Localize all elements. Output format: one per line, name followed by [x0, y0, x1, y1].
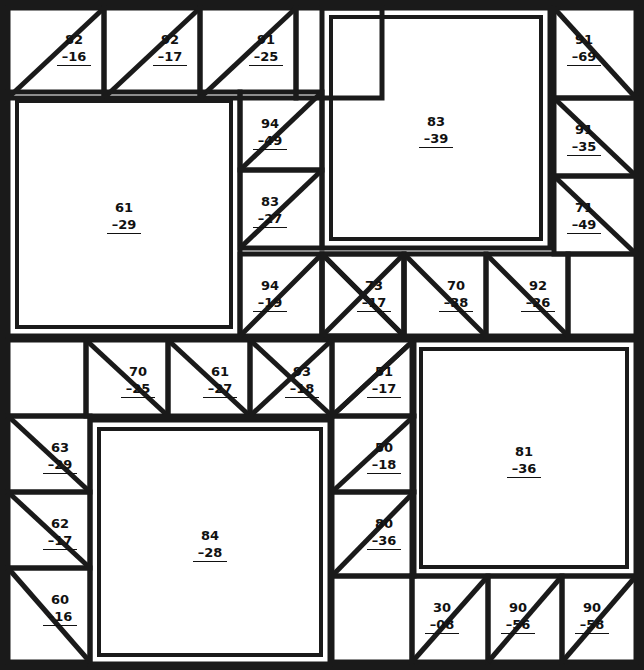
- piece-subcode-p26: –28: [198, 545, 223, 560]
- piece-code-p11: 71: [575, 200, 593, 215]
- piece-subcode-p21: –18: [290, 381, 315, 396]
- piece-subcode-p05: –69: [572, 49, 597, 64]
- piece-code-p32: 90: [509, 600, 527, 615]
- piece-code-p03: 91: [257, 32, 275, 47]
- piece-code-p21: 93: [293, 364, 311, 379]
- piece-code-p16: 92: [529, 278, 547, 293]
- piece-code-p26: 84: [201, 528, 219, 543]
- piece-subcode-p28: –36: [372, 533, 397, 548]
- quilt-diagram-canvas: 82–1692–1791–2591–6983–3994–4991–3561–29…: [0, 0, 644, 670]
- piece-subcode-p20: –27: [208, 381, 233, 396]
- piece-code-p28: 80: [375, 516, 393, 531]
- piece-code-p29: 60: [51, 592, 69, 607]
- piece-subcode-p10: –27: [258, 211, 283, 226]
- piece-subcode-p25: –18: [372, 457, 397, 472]
- piece-code-p19: 70: [129, 364, 147, 379]
- piece-code-p27: 62: [51, 516, 69, 531]
- piece-subcode-p32: –56: [506, 617, 531, 632]
- piece-subcode-p31: –08: [430, 617, 455, 632]
- piece-code-p02: 92: [161, 32, 179, 47]
- piece-code-p01: 82: [65, 32, 83, 47]
- piece-code-p08: 91: [575, 122, 593, 137]
- piece-fill-p18: [8, 340, 86, 416]
- piece-subcode-p14: –17: [362, 295, 387, 310]
- piece-code-p22: 51: [375, 364, 393, 379]
- piece-code-p25: 50: [375, 440, 393, 455]
- piece-code-p06: 83: [427, 114, 445, 129]
- piece-subcode-p07: –49: [258, 133, 283, 148]
- piece-subcode-p16: –26: [526, 295, 551, 310]
- piece-subcode-p12: –19: [258, 295, 283, 310]
- piece-code-p20: 61: [211, 364, 229, 379]
- piece-subcode-p11: –49: [572, 217, 597, 232]
- piece-subcode-p19: –25: [126, 381, 151, 396]
- piece-code-p31: 30: [433, 600, 451, 615]
- piece-subcode-p33: –58: [580, 617, 605, 632]
- piece-subcode-p15: –38: [444, 295, 469, 310]
- piece-subcode-p09: –29: [112, 217, 137, 232]
- piece-code-p09: 61: [115, 200, 133, 215]
- piece-fill-p17: [568, 254, 636, 336]
- piece-subcode-p06: –39: [424, 131, 449, 146]
- piece-code-p33: 90: [583, 600, 601, 615]
- piece-code-p05: 91: [575, 32, 593, 47]
- piece-subcode-p08: –35: [572, 139, 597, 154]
- piece-subcode-p22: –17: [372, 381, 397, 396]
- piece-code-p15: 70: [447, 278, 465, 293]
- piece-subcode-p23: –36: [512, 461, 537, 476]
- piece-subcode-p27: –17: [48, 533, 73, 548]
- piece-subcode-p29: –16: [48, 609, 73, 624]
- piece-subcode-p03: –25: [254, 49, 279, 64]
- piece-subcode-p24: –29: [48, 457, 73, 472]
- piece-fill-p30: [332, 576, 412, 662]
- piece-code-p23: 81: [515, 444, 533, 459]
- piece-code-p12: 94: [261, 278, 279, 293]
- piece-code-p24: 63: [51, 440, 69, 455]
- piece-code-p14: 73: [365, 278, 383, 293]
- quilt-block-svg: 82–1692–1791–2591–6983–3994–4991–3561–29…: [0, 0, 644, 670]
- piece-code-p07: 94: [261, 116, 279, 131]
- piece-subcode-p01: –16: [62, 49, 87, 64]
- piece-code-p10: 83: [261, 194, 279, 209]
- piece-subcode-p02: –17: [158, 49, 183, 64]
